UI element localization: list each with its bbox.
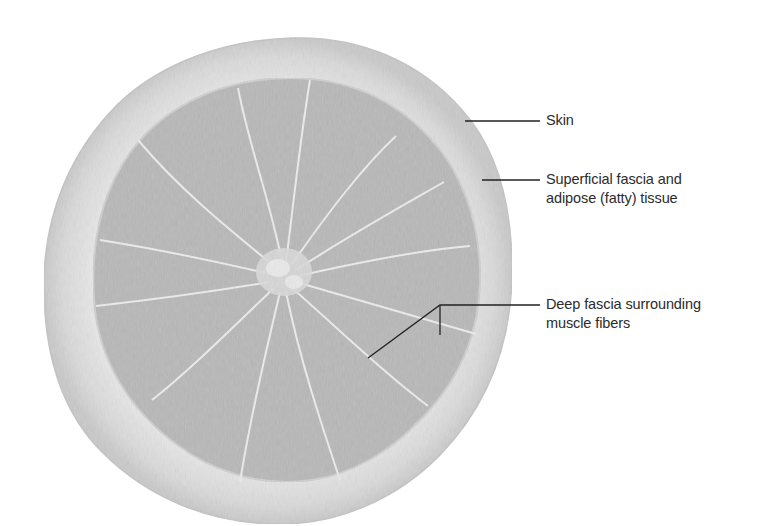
label-superficial-fascia: Superficial fascia and adipose (fatty) t…: [546, 170, 682, 208]
label-skin: Skin: [546, 111, 574, 130]
fruit-cross-section-diagram: [0, 0, 783, 526]
label-superficial-fascia-line1: Superficial fascia and: [546, 170, 682, 189]
label-deep-fascia-line2: muscle fibers: [546, 314, 701, 333]
label-deep-fascia: Deep fascia surrounding muscle fibers: [546, 295, 701, 333]
label-deep-fascia-line1: Deep fascia surrounding: [546, 295, 701, 314]
label-superficial-fascia-line2: adipose (fatty) tissue: [546, 189, 682, 208]
label-skin-text: Skin: [546, 112, 574, 128]
